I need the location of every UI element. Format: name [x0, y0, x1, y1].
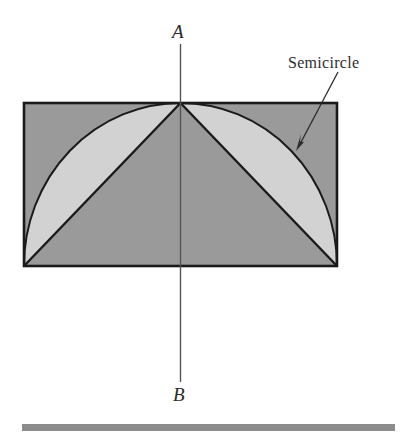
semicircle-callout-label: Semicircle — [288, 55, 359, 71]
vertex-label-a: A — [172, 22, 184, 41]
bottom-divider-rule — [22, 424, 395, 431]
figure-canvas: A B Semicircle — [0, 0, 404, 440]
vertex-label-b: B — [173, 385, 185, 404]
